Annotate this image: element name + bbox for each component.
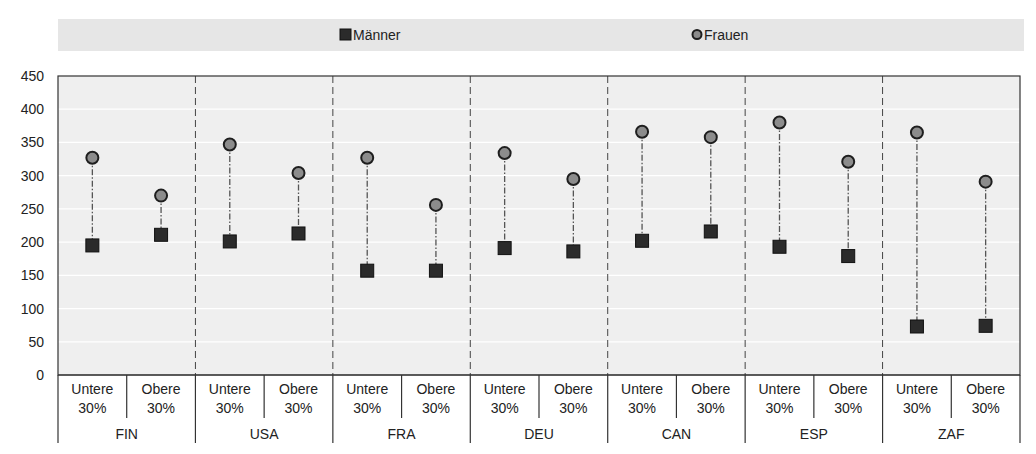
- marker-frauen: [567, 173, 579, 185]
- marker-maenner: [86, 239, 99, 252]
- y-tick-label: 450: [21, 68, 45, 84]
- x-sublabel-line2: 30%: [972, 400, 1000, 416]
- marker-maenner: [155, 228, 168, 241]
- marker-frauen: [980, 176, 992, 188]
- x-sublabel-line2: 30%: [559, 400, 587, 416]
- x-sublabel-line1: Untere: [758, 381, 800, 397]
- marker-frauen: [86, 152, 98, 164]
- x-sublabel-line2: 30%: [491, 400, 519, 416]
- x-sublabel-line1: Obere: [279, 381, 318, 397]
- marker-maenner: [842, 250, 855, 263]
- marker-frauen: [499, 147, 511, 159]
- x-sublabel-line1: Untere: [209, 381, 251, 397]
- x-group-label: DEU: [524, 426, 554, 442]
- x-sublabel-line2: 30%: [284, 400, 312, 416]
- marker-maenner: [292, 227, 305, 240]
- y-tick-label: 400: [21, 101, 45, 117]
- x-sublabel-line1: Obere: [829, 381, 868, 397]
- x-sublabel-line2: 30%: [697, 400, 725, 416]
- legend-marker-frauen: [693, 30, 702, 39]
- x-sublabel-line1: Obere: [691, 381, 730, 397]
- y-tick-label: 100: [21, 301, 45, 317]
- x-sublabel-line1: Untere: [346, 381, 388, 397]
- x-group-label: USA: [250, 426, 279, 442]
- marker-maenner: [910, 320, 923, 333]
- x-sublabel-line2: 30%: [834, 400, 862, 416]
- marker-maenner: [223, 235, 236, 248]
- x-sublabel-line1: Untere: [896, 381, 938, 397]
- marker-frauen: [224, 138, 236, 150]
- x-sublabel-line1: Obere: [142, 381, 181, 397]
- x-axis: Untere30%Obere30%FINUntere30%Obere30%USA…: [58, 375, 1020, 443]
- x-group-label: CAN: [662, 426, 692, 442]
- marker-maenner: [773, 240, 786, 253]
- legend-marker-maenner: [340, 29, 351, 40]
- marker-frauen: [911, 126, 923, 138]
- marker-frauen: [774, 117, 786, 129]
- x-group-label: FIN: [115, 426, 138, 442]
- x-sublabel-line2: 30%: [147, 400, 175, 416]
- x-sublabel-line1: Untere: [71, 381, 113, 397]
- x-sublabel-line2: 30%: [903, 400, 931, 416]
- marker-frauen: [842, 156, 854, 168]
- x-sublabel-line1: Untere: [621, 381, 663, 397]
- legend-label-frauen: Frauen: [704, 27, 748, 43]
- marker-maenner: [979, 319, 992, 332]
- x-group-label: ZAF: [938, 426, 964, 442]
- y-axis: 050100150200250300350400450: [21, 68, 45, 383]
- dumbbell-chart: Männer Frauen 05010015020025030035040045…: [0, 0, 1036, 454]
- x-sublabel-line2: 30%: [353, 400, 381, 416]
- x-sublabel-line1: Obere: [416, 381, 455, 397]
- y-tick-label: 200: [21, 234, 45, 250]
- x-sublabel-line2: 30%: [628, 400, 656, 416]
- marker-maenner: [636, 234, 649, 247]
- x-sublabel-line1: Obere: [554, 381, 593, 397]
- plot-area: [58, 76, 1020, 375]
- x-sublabel-line2: 30%: [765, 400, 793, 416]
- x-sublabel-line2: 30%: [422, 400, 450, 416]
- y-tick-label: 50: [28, 334, 44, 350]
- x-group-label: ESP: [800, 426, 828, 442]
- marker-frauen: [293, 167, 305, 179]
- marker-frauen: [430, 199, 442, 211]
- x-sublabel-line1: Obere: [966, 381, 1005, 397]
- x-sublabel-line1: Untere: [484, 381, 526, 397]
- marker-maenner: [429, 264, 442, 277]
- marker-frauen: [636, 126, 648, 138]
- marker-maenner: [498, 242, 511, 255]
- y-tick-label: 300: [21, 168, 45, 184]
- y-tick-label: 150: [21, 267, 45, 283]
- marker-maenner: [361, 264, 374, 277]
- y-tick-label: 0: [36, 367, 44, 383]
- legend-label-maenner: Männer: [353, 27, 401, 43]
- x-sublabel-line2: 30%: [216, 400, 244, 416]
- x-sublabel-line2: 30%: [78, 400, 106, 416]
- marker-maenner: [567, 245, 580, 258]
- y-tick-label: 250: [21, 201, 45, 217]
- legend-band: [58, 19, 1024, 51]
- x-group-label: FRA: [388, 426, 417, 442]
- marker-frauen: [705, 131, 717, 143]
- marker-maenner: [704, 225, 717, 238]
- y-tick-label: 350: [21, 134, 45, 150]
- marker-frauen: [361, 152, 373, 164]
- marker-frauen: [155, 190, 167, 202]
